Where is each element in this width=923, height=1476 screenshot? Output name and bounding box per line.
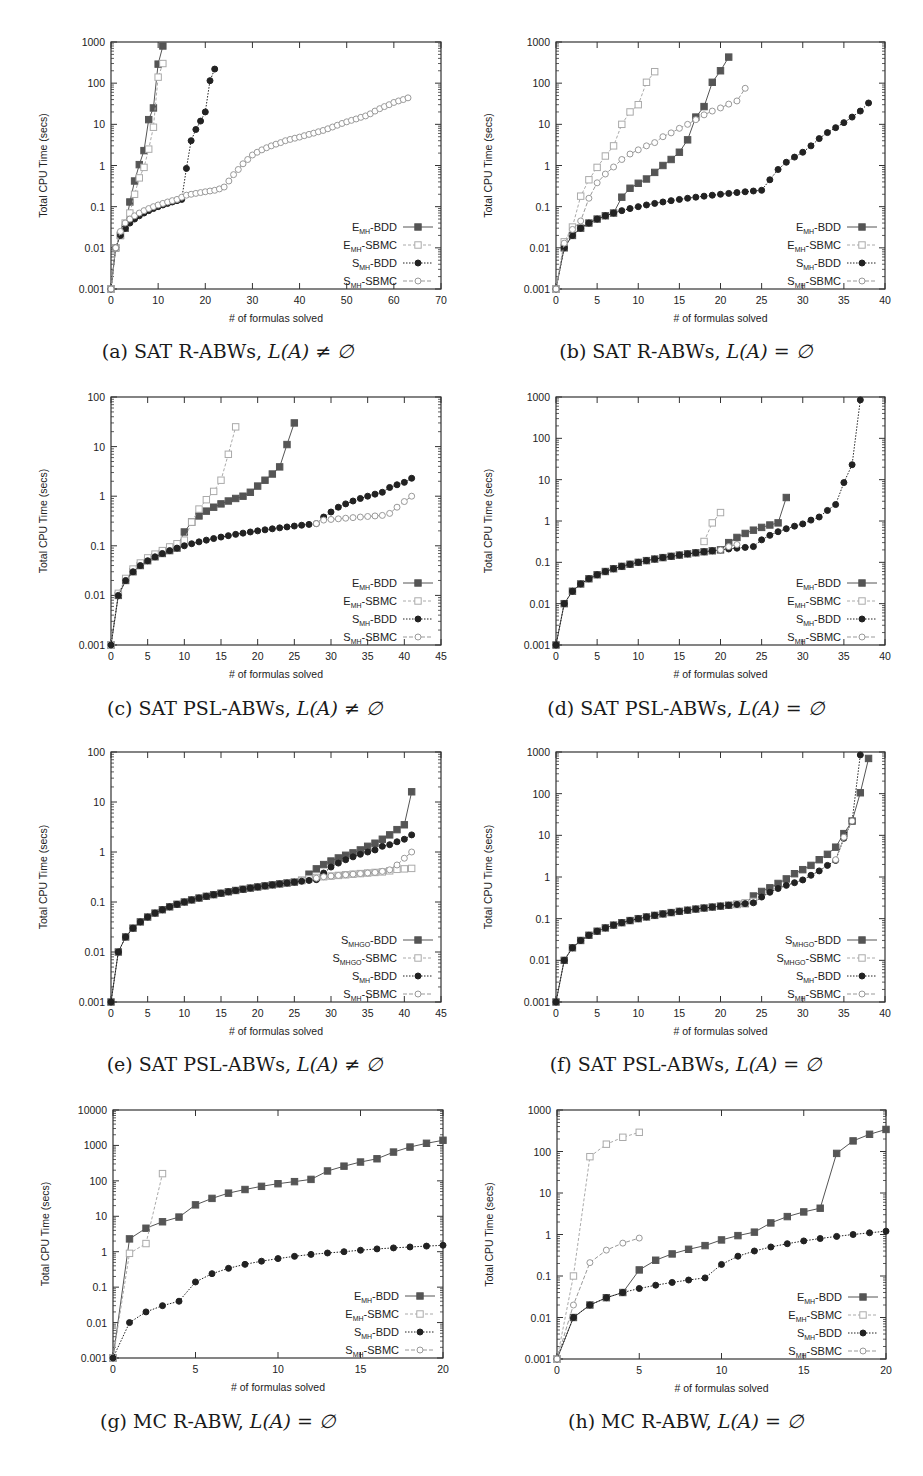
legend-entry: SMH-SBMC [787,275,841,289]
y-tick-label: 1 [545,1229,551,1241]
y-tick-label: 0.1 [535,913,550,925]
x-tick-label: 25 [756,1007,768,1019]
caption-text: (b) SAT R-ABWs, [559,340,726,362]
legend-entry: SMH-SBMC [787,631,841,645]
y-tick-label: 1 [544,160,550,172]
chart-panel-g: 0.0010.010.111010010001000005101520# of … [113,1110,443,1358]
chart-panel-a: 0.0010.010.11101001000010203040506070# o… [111,42,441,289]
plot-frame [556,397,885,645]
y-axis-label: Total CPU Time (secs) [482,469,494,573]
chart-panel-c: 0.0010.010.1110100051015202530354045# of… [111,397,441,645]
x-tick-label: 20 [880,1364,892,1376]
x-tick-label: 25 [756,294,768,306]
y-tick-label: 10 [538,829,550,841]
y-axis-ticks [113,1110,443,1358]
x-tick-label: 10 [178,1007,190,1019]
y-tick-label: 1000 [527,36,551,48]
x-tick-label: 20 [252,1007,264,1019]
x-tick-label: 40 [879,294,891,306]
caption-text: (e) SAT PSL-ABWs, [107,1053,297,1075]
x-tick-label: 5 [636,1364,642,1376]
y-tick-label: 0.01 [530,242,551,254]
caption-math: L(A) = ∅ [739,697,825,719]
x-tick-label: 50 [341,294,353,306]
x-tick-label: 30 [797,294,809,306]
x-tick-label: 0 [108,1007,114,1019]
caption-text: (c) SAT PSL-ABWs, [107,697,297,719]
x-tick-label: 5 [145,650,151,662]
y-axis-label: Total CPU Time (secs) [37,113,49,217]
x-tick-label: 0 [110,1363,116,1375]
caption-b: (b) SAT R-ABWs, L(A) = ∅ [559,340,812,362]
x-tick-label: 35 [838,650,850,662]
caption-math: L(A) = ∅ [250,1410,336,1432]
chart-svg: 0.0010.010.1110100051015202530354045# of… [111,397,441,645]
y-tick-label: 100 [532,432,550,444]
y-tick-label: 10 [93,118,105,130]
x-tick-label: 0 [554,1364,560,1376]
legend-entry: EMH-SBMC [787,595,841,609]
y-tick-label: 0.001 [79,996,105,1008]
caption-g: (g) MC R-ABW, L(A) = ∅ [100,1410,336,1432]
y-tick-label: 0.01 [85,589,106,601]
y-tick-label: 0.1 [92,1281,107,1293]
x-tick-label: 35 [362,1007,374,1019]
legend-entry: EMH-BDD [796,577,841,591]
legend-entry: SMHGO-SBMC [332,952,397,966]
legend-entry: SMHGO-BDD [785,934,841,948]
legend-entry: EMH-BDD [797,1291,842,1305]
plot-frame [113,1110,443,1358]
y-tick-label: 1 [101,1246,107,1258]
y-tick-label: 0.001 [524,283,550,295]
chart-panel-b: 0.0010.010.111010010000510152025303540# … [556,42,885,289]
x-axis-label: # of formulas solved [675,1382,769,1394]
y-tick-label: 0.001 [79,283,105,295]
legend: EMH-BDDEMH-SBMCSMH-BDDSMH-SBMC [343,221,433,289]
legend: EMH-BDDEMH-SBMCSMH-BDDSMH-SBMC [787,221,877,289]
caption-e: (e) SAT PSL-ABWs, L(A) ≠ ∅ [107,1053,384,1075]
x-axis-label: # of formulas solved [674,1025,768,1037]
y-tick-label: 0.001 [81,1352,107,1364]
legend-entry: SMH-BDD [354,1326,399,1340]
chart-svg: 0.0010.010.111010010000510152025303540# … [556,42,885,289]
legend-entry: EMH-SBMC [787,239,841,253]
x-tick-label: 35 [362,650,374,662]
x-tick-label: 10 [632,1007,644,1019]
y-axis-ticks [111,397,441,645]
legend-entry: EMH-BDD [354,1290,399,1304]
legend: EMH-BDDEMH-SBMCSMH-BDDSMH-SBMC [345,1290,435,1358]
caption-text: (d) SAT PSL-ABWs, [547,697,738,719]
series-s-mh-bdd [108,66,218,292]
y-tick-label: 1000 [84,1139,108,1151]
plot-frame [556,42,885,289]
y-tick-label: 10 [538,474,550,486]
y-tick-label: 1 [544,515,550,527]
series-e-mh-bdd [553,54,732,292]
series-s-mh-bdd [553,397,863,648]
chart-panel-h: 0.0010.010.1110100100005101520# of formu… [557,1110,886,1359]
chart-panel-e: 0.0010.010.1110100051015202530354045# of… [111,752,441,1002]
y-tick-label: 1000 [82,36,106,48]
y-axis-ticks [111,752,441,1002]
x-tick-label: 25 [756,650,768,662]
chart-panel-d: 0.0010.010.111010010000510152025303540# … [556,397,885,645]
y-tick-label: 100 [87,746,105,758]
legend-entry: SMH-BDD [797,1327,842,1341]
x-tick-label: 70 [435,294,447,306]
chart-svg: 0.0010.010.111010010000510152025303540# … [556,752,885,1002]
legend: SMHGO-BDDSMHGO-SBMCSMH-BDDSMH-SBMC [332,934,433,1002]
x-tick-label: 40 [294,294,306,306]
caption-math: L(A) = ∅ [727,340,813,362]
y-tick-label: 1000 [528,1104,552,1116]
x-tick-label: 20 [437,1363,449,1375]
legend-entry: SMH-SBMC [345,1344,399,1358]
y-tick-label: 10 [95,1210,107,1222]
y-tick-label: 0.001 [79,639,105,651]
y-tick-label: 10 [539,1187,551,1199]
legend-entry: SMH-SBMC [343,988,397,1002]
y-tick-label: 0.001 [524,639,550,651]
y-axis-label: Total CPU Time (secs) [482,825,494,929]
caption-math: L(A) = ∅ [736,1053,822,1075]
caption-h: (h) MC R-ABW, L(A) = ∅ [568,1410,804,1432]
x-tick-label: 30 [325,1007,337,1019]
